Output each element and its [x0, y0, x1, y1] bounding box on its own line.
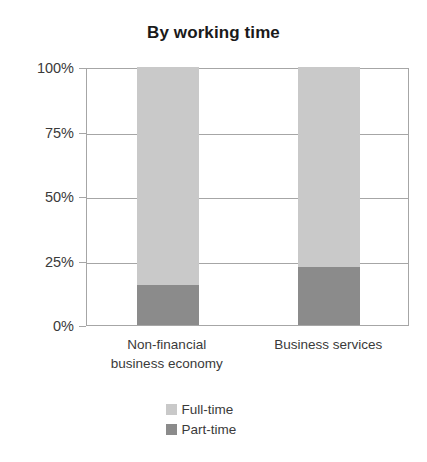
- legend-item-part-time[interactable]: Part-time: [166, 422, 262, 437]
- x-axis-label-line: Non-financial: [77, 335, 257, 354]
- y-tick-mark: [79, 197, 86, 198]
- x-axis-category-label: Non-financialbusiness economy: [77, 335, 257, 373]
- legend-swatch-icon: [166, 424, 177, 435]
- y-axis: 0%25%50%75%100%: [0, 68, 74, 326]
- chart-title: By working time: [0, 23, 427, 43]
- chart-legend: Full-timePart-time: [0, 402, 427, 437]
- y-tick-mark: [79, 262, 86, 263]
- y-tick-label: 100%: [0, 60, 74, 76]
- bar-segment-full-time[interactable]: [298, 67, 360, 267]
- plot-area: [86, 68, 409, 326]
- bar-segment-full-time[interactable]: [137, 67, 199, 285]
- x-axis-label-line: business economy: [77, 354, 257, 373]
- legend-item-full-time[interactable]: Full-time: [166, 402, 262, 417]
- y-tick-mark: [79, 326, 86, 327]
- y-tick-label: 50%: [0, 189, 74, 205]
- bar-group: [298, 67, 360, 325]
- y-tick-label: 25%: [0, 254, 74, 270]
- bar-group: [137, 67, 199, 325]
- y-tick-mark: [79, 133, 86, 134]
- legend-label: Full-time: [182, 402, 234, 417]
- legend-label: Part-time: [182, 422, 237, 437]
- chart-container: By working time 0%25%50%75%100% Full-tim…: [0, 0, 427, 462]
- y-tick-label: 75%: [0, 125, 74, 141]
- bar-segment-part-time[interactable]: [298, 267, 360, 325]
- x-axis-label-line: Business services: [238, 335, 418, 354]
- legend-swatch-icon: [166, 404, 177, 415]
- y-tick-mark: [79, 68, 86, 69]
- x-axis-category-label: Business services: [238, 335, 418, 354]
- y-tick-label: 0%: [0, 318, 74, 334]
- bar-segment-part-time[interactable]: [137, 285, 199, 325]
